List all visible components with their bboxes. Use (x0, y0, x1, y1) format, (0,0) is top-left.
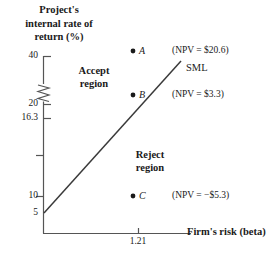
data-point-c-npv-annotation: (NPV = −$5.3) (172, 190, 229, 201)
chart-title-line-2: internal rate of (0, 17, 118, 31)
data-point-a-npv-annotation: (NPV = $20.6) (172, 45, 229, 56)
data-point-a-marker (131, 49, 136, 54)
accept-region-line-2: region (60, 77, 128, 90)
reject-region-label: Reject region (118, 148, 182, 175)
sml-line-label: SML (186, 62, 208, 74)
chart-title-line-3: return (%) (0, 30, 118, 44)
security-market-line-chart: Project's internal rate of return (%) 40… (0, 0, 268, 260)
accept-region-label: Accept region (60, 64, 128, 91)
reject-region-line-1: Reject (118, 148, 182, 161)
data-point-c-label: C (139, 190, 146, 201)
x-axis-title: Firm's risk (beta) (187, 226, 266, 238)
y-tick-label-40: 40 (4, 50, 38, 61)
data-point-a-label: A (139, 45, 145, 56)
data-point-b-marker (131, 93, 136, 98)
y-tick-label-20: 20 (4, 98, 38, 109)
y-tick-label-5: 5 (4, 207, 38, 218)
chart-title: Project's internal rate of return (%) (0, 3, 118, 44)
reject-region-line-2: region (118, 161, 182, 174)
accept-region-line-1: Accept (60, 64, 128, 77)
data-point-b-npv-annotation: (NPV = $3.3) (172, 89, 224, 100)
chart-title-line-1: Project's (0, 3, 118, 17)
data-point-b-label: B (139, 89, 145, 100)
y-axis-break-icon (38, 85, 49, 102)
y-tick-label-10: 10 (4, 190, 38, 201)
x-tick-label-1-21: 1.21 (118, 236, 158, 247)
y-tick-label-16-3: 16.3 (4, 112, 38, 123)
data-point-c-marker (131, 194, 136, 199)
